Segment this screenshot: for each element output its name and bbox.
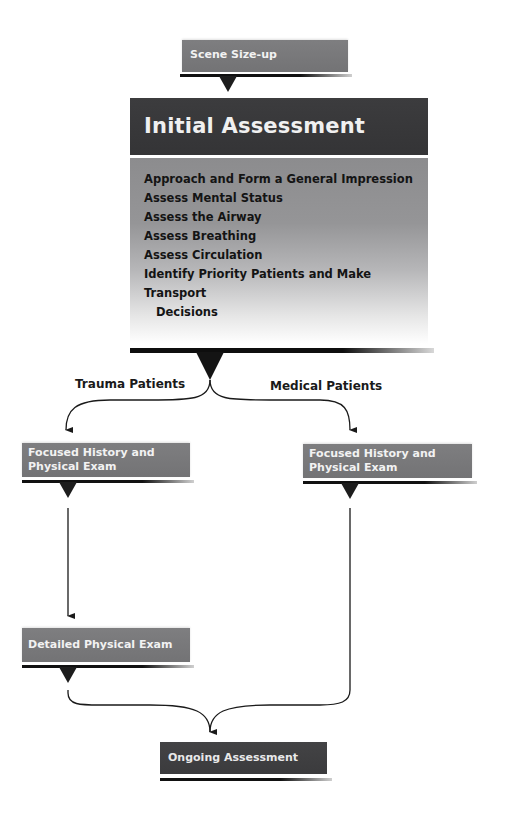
pointer-down-icon [341, 483, 359, 499]
focused-history-trauma-box: Focused History and Physical Exam [22, 443, 190, 477]
arrow-medical-to-ongoing [210, 508, 350, 732]
focused-trauma-line1: Focused History and [28, 446, 184, 460]
initial-assessment-header: Initial Assessment [130, 98, 428, 155]
ongoing-assessment-label: Ongoing Assessment [168, 751, 298, 764]
step-general-impression: Approach and Form a General Impression [144, 170, 414, 189]
focused-medical-line1: Focused History and [309, 447, 466, 461]
detailed-exam-underline [22, 665, 194, 668]
ongoing-assessment-box: Ongoing Assessment [160, 742, 327, 774]
scene-sizeup-underline [180, 74, 352, 77]
detailed-physical-exam-box: Detailed Physical Exam [22, 628, 190, 662]
initial-assessment-underline [130, 348, 434, 353]
focused-trauma-line2: Physical Exam [28, 460, 184, 474]
step-airway: Assess the Airway [144, 208, 414, 227]
arrow-detailed-to-ongoing [68, 690, 210, 732]
step-circulation: Assess Circulation [144, 246, 414, 265]
detailed-exam-label: Detailed Physical Exam [28, 638, 172, 651]
step-priority-transport-cont: Decisions [144, 303, 414, 322]
pointer-down-icon [59, 667, 77, 683]
step-breathing: Assess Breathing [144, 227, 414, 246]
pointer-down-icon [219, 76, 237, 92]
pointer-down-icon [59, 482, 77, 498]
step-mental-status: Assess Mental Status [144, 189, 414, 208]
scene-sizeup-box: Scene Size-up [182, 40, 348, 72]
scene-sizeup-label: Scene Size-up [190, 48, 277, 61]
initial-assessment-body: Approach and Form a General Impression A… [130, 158, 428, 344]
branch-label-trauma: Trauma Patients [75, 377, 185, 391]
focused-medical-line2: Physical Exam [309, 461, 466, 475]
ongoing-assessment-underline [160, 778, 332, 781]
step-priority-transport: Identify Priority Patients and Make Tran… [144, 265, 414, 303]
focused-medical-underline [303, 481, 477, 484]
pointer-down-large-icon [196, 352, 224, 380]
focused-history-medical-box: Focused History and Physical Exam [303, 444, 472, 478]
focused-trauma-underline [22, 480, 194, 483]
branch-label-medical: Medical Patients [270, 379, 382, 393]
initial-assessment-title: Initial Assessment [144, 114, 365, 138]
